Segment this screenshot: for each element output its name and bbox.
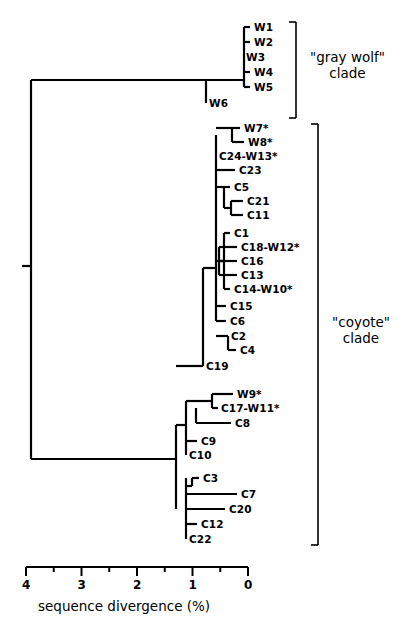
tip-label-W8: W8* [248, 137, 273, 148]
tip-label-C21: C21 [247, 196, 270, 207]
tip-label-W5: W5 [254, 82, 273, 93]
tip-label-C23: C23 [239, 165, 262, 176]
tip-label-W1: W1 [254, 22, 273, 33]
axis-tick-label-2: 2 [133, 579, 141, 591]
clade-brackets [289, 22, 318, 545]
tip-label-C15: C15 [230, 301, 253, 312]
tip-label-C14-W10: C14-W10* [234, 284, 293, 295]
axis-tick-label-0: 0 [244, 579, 252, 591]
tip-label-W4: W4 [254, 67, 273, 78]
tip-label-W3: W3 [246, 52, 265, 63]
axis-title: sequence divergence (%) [38, 600, 210, 614]
axis-tick-label-4: 4 [22, 579, 30, 591]
tip-label-C24-W13: C24-W13* [219, 151, 278, 162]
tip-label-C18-W12: C18-W12* [241, 242, 300, 253]
tip-label-W9: W9* [237, 389, 262, 400]
tip-label-C13: C13 [241, 270, 264, 281]
tip-label-C20: C20 [229, 504, 252, 515]
tip-label-C17-W11: C17-W11* [221, 403, 280, 414]
tip-label-C11: C11 [247, 210, 270, 221]
tip-label-C22: C22 [189, 534, 212, 545]
tip-label-C8: C8 [235, 418, 250, 429]
tip-label-C4: C4 [240, 345, 255, 356]
tip-label-C10: C10 [189, 450, 212, 461]
axis-tick-label-3: 3 [78, 579, 86, 591]
scale-axis [26, 567, 248, 576]
tip-label-C3: C3 [203, 473, 218, 484]
tip-label-C16: C16 [241, 256, 264, 267]
tip-label-C5: C5 [234, 182, 249, 193]
tip-label-W6: W6 [209, 98, 228, 109]
tip-label-C19: C19 [206, 361, 229, 372]
tip-label-W7: W7* [244, 123, 269, 134]
tip-label-C12: C12 [201, 519, 224, 530]
tip-label-C1: C1 [234, 228, 249, 239]
axis-tick-label-1: 1 [189, 579, 197, 591]
clade-label-gray-wolf: "gray wolf" clade [310, 50, 385, 81]
tip-label-C2: C2 [231, 331, 246, 342]
tip-label-C7: C7 [241, 489, 256, 500]
tip-label-C6: C6 [230, 316, 245, 327]
clade-label-coyote: "coyote" clade [332, 315, 390, 346]
tip-label-C9: C9 [201, 436, 216, 447]
tip-label-W2: W2 [254, 37, 273, 48]
